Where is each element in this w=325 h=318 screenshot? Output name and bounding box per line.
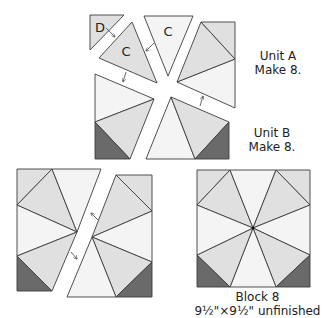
unit-a-finished — [177, 22, 235, 108]
piece-c-tilted-label: C — [121, 44, 130, 59]
block-assembly-diagram: D C C — [0, 0, 325, 318]
piece-c-upright-label: C — [163, 24, 172, 39]
arrow-icon — [71, 252, 77, 259]
block-title: Block 8 — [190, 290, 325, 304]
unit-b-quantity: Make 8. — [237, 140, 307, 154]
block-caption: Block 8 9½"×9½" unfinished — [190, 290, 325, 318]
arrow-icon — [123, 72, 126, 82]
unit-a-quantity: Make 8. — [243, 63, 313, 77]
unit-b-caption: Unit B Make 8. — [237, 126, 307, 154]
arrow-icon — [91, 213, 98, 220]
unit-b-title: Unit B — [237, 126, 307, 140]
unit-a-caption: Unit A Make 8. — [243, 49, 313, 77]
arrow-icon — [200, 96, 203, 106]
unit-b-right — [146, 97, 229, 159]
finished-block — [197, 170, 310, 287]
block-size: 9½"×9½" unfinished — [190, 304, 325, 318]
block-halves-assembly — [17, 169, 152, 297]
piece-d-label: D — [95, 20, 105, 35]
unit-b-left — [95, 74, 154, 159]
block-center-point — [251, 226, 254, 229]
unit-a-title: Unit A — [243, 49, 313, 63]
